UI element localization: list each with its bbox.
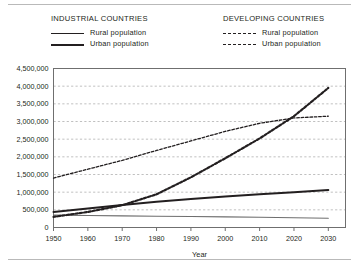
population-figure: INDUSTRIAL COUNTRIES Rural population Ur… xyxy=(0,0,359,268)
data-series-line xyxy=(54,116,329,178)
y-axis-tick-label: 4,000,000 xyxy=(17,82,49,91)
data-series-line xyxy=(54,190,329,212)
x-axis-title: Year xyxy=(192,250,207,259)
y-axis-tick-label: 3,500,000 xyxy=(17,99,49,108)
x-axis-tick-label: 2010 xyxy=(252,234,268,243)
y-axis-tick-label: 4,500,000 xyxy=(17,64,49,73)
data-series-line xyxy=(54,215,329,218)
x-axis-tick-label: 1990 xyxy=(183,234,199,243)
x-axis-tick-label: 1960 xyxy=(80,234,96,243)
x-axis-tick-label: 2030 xyxy=(320,234,336,243)
y-axis-tick-label: 3,000,000 xyxy=(17,117,49,126)
y-axis-tick-label: 0 xyxy=(45,223,49,232)
y-axis-tick-label: 1,500,000 xyxy=(17,170,49,179)
x-axis-tick-label: 2000 xyxy=(217,234,233,243)
data-series-line xyxy=(54,88,329,217)
y-axis-tick-label: 2,500,000 xyxy=(17,135,49,144)
plot-frame xyxy=(54,69,346,228)
x-axis-tick-label: 1980 xyxy=(149,234,165,243)
x-axis-tick-label: 1970 xyxy=(114,234,130,243)
y-axis-tick-label: 500,000 xyxy=(23,205,49,214)
x-axis-tick-label: 1950 xyxy=(46,234,62,243)
y-axis-tick-label: 1,000,000 xyxy=(17,188,49,197)
chart-plot-area: 0500,0001,000,0001,500,0002,000,0002,500… xyxy=(0,0,359,268)
population-line-chart: 0500,0001,000,0001,500,0002,000,0002,500… xyxy=(0,0,359,268)
y-axis-tick-label: 2,000,000 xyxy=(17,152,49,161)
x-axis-tick-label: 2020 xyxy=(286,234,302,243)
